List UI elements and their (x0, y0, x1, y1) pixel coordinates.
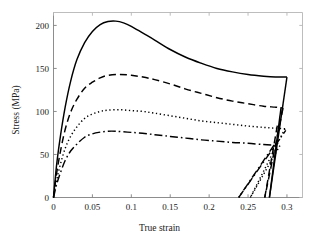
x-tick-label: 0.1 (126, 202, 137, 212)
chart-canvas: 00.050.10.150.20.250.3050100150200 (0, 0, 319, 244)
curve-dashed (54, 74, 284, 197)
data-series (54, 21, 287, 198)
curve-dashdot-reloading (239, 130, 286, 197)
curve-dotted (54, 110, 285, 198)
tick-labels: 00.050.10.150.20.250.3050100150200 (36, 21, 294, 212)
curve-dashdot-loading (54, 131, 275, 197)
y-tick-label: 150 (36, 64, 50, 74)
y-tick-label: 50 (40, 150, 50, 160)
tick-marks (54, 13, 303, 198)
curve-dashdot (54, 130, 286, 197)
x-tick-label: 0 (51, 202, 56, 212)
x-tick-label: 0.2 (204, 202, 215, 212)
y-tick-label: 0 (45, 193, 50, 203)
curve-dotted-unloading (250, 129, 285, 198)
curve-solid (54, 21, 287, 198)
y-tick-label: 100 (36, 107, 50, 117)
x-axis-label: True strain (0, 223, 319, 233)
y-tick-label: 200 (36, 21, 50, 31)
x-tick-label: 0.15 (162, 202, 178, 212)
curve-dotted-loading (54, 110, 285, 198)
curve-dashed-loading (54, 74, 284, 197)
x-tick-label: 0.3 (281, 202, 293, 212)
x-tick-label: 0.25 (240, 202, 256, 212)
curve-solid-loading (54, 21, 287, 198)
stress-strain-figure: 00.050.10.150.20.250.3050100150200 Stres… (0, 0, 319, 244)
y-axis-label: Stress (MPa) (11, 70, 21, 150)
axes (54, 13, 303, 198)
x-tick-label: 0.05 (85, 202, 101, 212)
